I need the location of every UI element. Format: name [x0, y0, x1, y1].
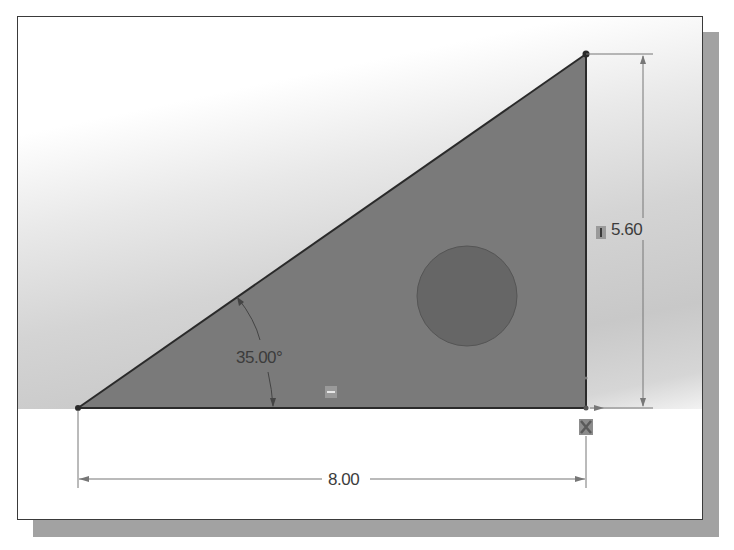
arrow-right-icon [594, 405, 604, 411]
height-dimension-label[interactable]: 5.60 [611, 220, 642, 240]
width-dimension-label[interactable]: 8.00 [328, 470, 359, 490]
sketch-viewport[interactable]: 5.60 35.00° 8.00 [17, 16, 703, 520]
vertex-bottom-right[interactable] [584, 406, 589, 411]
angle-dimension-label[interactable]: 35.00° [236, 348, 282, 368]
arrow-down-icon [640, 398, 646, 407]
sketch-canvas[interactable] [18, 17, 702, 519]
arrow-left-icon [79, 476, 89, 482]
arrow-right-icon [575, 476, 585, 482]
midpoint-vertical-edge [585, 377, 588, 380]
circular-hole[interactable] [417, 246, 517, 346]
arrow-up-icon [640, 55, 646, 64]
